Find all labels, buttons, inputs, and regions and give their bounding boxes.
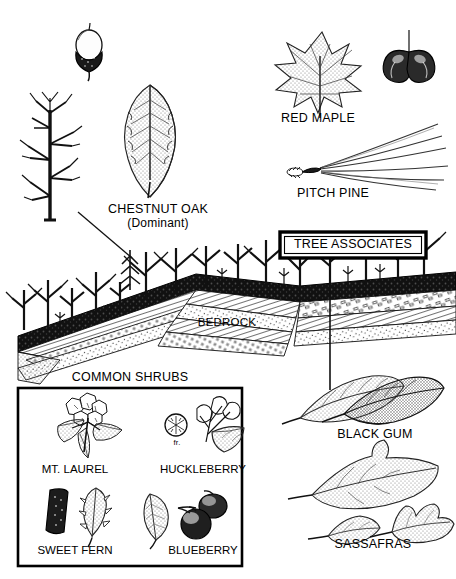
label-huckleberry: HUCKLEBERRY [148, 463, 258, 475]
ecology-profile-figure: CHESTNUT OAK (Dominant) RED MAPLE PITCH … [0, 0, 456, 579]
label-blueberry: BLUEBERRY [148, 544, 258, 556]
label-tree-associates: TREE ASSOCIATES [286, 238, 420, 251]
label-pitch-pine: PITCH PINE [278, 187, 388, 200]
illustration-canvas [0, 0, 456, 579]
label-huckleberry-fruit-abbrev: fr. [166, 439, 188, 447]
label-common-shrubs: COMMON SHRUBS [50, 371, 210, 384]
label-bedrock: BEDROCK [182, 316, 272, 328]
label-sassafras: SASSAFRAS [318, 538, 428, 551]
samara-icon [383, 30, 435, 82]
maple-leaf-icon [275, 32, 361, 118]
pine-needle-fascicle-icon [287, 124, 448, 190]
label-mt-laurel: MT. LAUREL [20, 463, 130, 475]
label-black-gum: BLACK GUM [320, 428, 430, 441]
sassafras-leaf-icon [288, 440, 454, 544]
label-chestnut-oak-dominant: (Dominant) [88, 217, 228, 230]
acorn-icon [76, 23, 102, 81]
label-red-maple: RED MAPLE [258, 112, 378, 125]
label-chestnut-oak: CHESTNUT OAK [88, 203, 228, 216]
bare-tree-icon [20, 92, 82, 220]
oak-leaf-icon [125, 85, 176, 198]
label-sweet-fern: SWEET FERN [20, 544, 130, 556]
black-gum-leaf-icon [282, 376, 444, 425]
